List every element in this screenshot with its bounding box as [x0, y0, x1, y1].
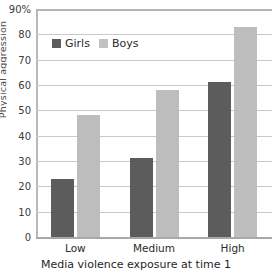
y-axis-tick-label: 40 [0, 130, 31, 141]
legend-label-boys: Boys [112, 37, 139, 50]
bar-chart: Physical aggression 90%80706050403020100… [0, 0, 272, 275]
gridline [36, 237, 272, 239]
bar-high-boys [234, 27, 257, 237]
y-axis-tick-label: 10 [0, 206, 31, 217]
legend-item-girls: Girls [52, 37, 90, 50]
legend-swatch-girls [52, 39, 61, 48]
x-axis-tick-label: Low [40, 242, 110, 254]
legend-item-boys: Boys [99, 37, 139, 50]
x-axis-tick-label: Medium [119, 242, 189, 254]
y-axis-tick-label: 70 [0, 54, 31, 65]
y-axis-tick-label: 60 [0, 80, 31, 91]
y-axis-tick-label: 30 [0, 156, 31, 167]
x-axis-title: Media violence exposure at time 1 [0, 258, 272, 271]
y-axis-tick-label: 0 [0, 232, 31, 243]
y-axis-tick-label: 50 [0, 105, 31, 116]
bar-medium-boys [156, 90, 179, 237]
legend-label-girls: Girls [65, 37, 90, 50]
bar-medium-girls [130, 158, 153, 237]
bar-high-girls [208, 82, 231, 237]
legend: Girls Boys [52, 37, 138, 50]
bar-low-boys [77, 115, 100, 237]
y-axis-tick-label: 20 [0, 181, 31, 192]
legend-swatch-boys [99, 39, 108, 48]
y-axis-tick-label: 80 [0, 29, 31, 40]
x-axis-tick-label: High [198, 242, 268, 254]
bar-low-girls [51, 179, 74, 237]
y-axis-tick-label: 90% [0, 4, 31, 15]
